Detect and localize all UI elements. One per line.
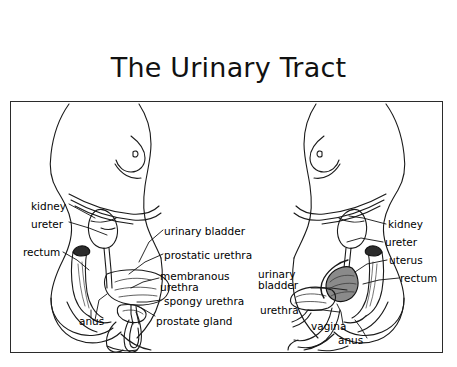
label-male-rectum: rectum xyxy=(23,247,60,258)
label-female-anus: anus xyxy=(338,335,363,346)
label-female-vagina: vagina xyxy=(311,321,346,332)
label-female-ureter: ureter xyxy=(385,237,417,248)
label-female-rectum: rectum xyxy=(400,273,437,284)
page-title: The Urinary Tract xyxy=(0,54,457,81)
label-male-anus: anus xyxy=(79,316,104,327)
label-female-uterus: uterus xyxy=(389,255,423,266)
label-male-kidney: kidney xyxy=(31,201,66,212)
label-female-kidney: kidney xyxy=(388,219,423,230)
label-male-ureter: ureter xyxy=(31,219,63,230)
label-male-spongy-urethra: spongy urethra xyxy=(164,296,244,307)
diagram-frame: kidney ureter rectum anus urinary bladde… xyxy=(10,101,443,353)
label-male-urinary-bladder: urinary bladder xyxy=(164,226,245,237)
label-male-prostate-gland: prostate gland xyxy=(156,316,232,327)
label-male-membranous-urethra: membranous urethra xyxy=(160,271,230,293)
label-female-urethra: urethra xyxy=(260,305,299,316)
label-female-urinary-bladder: urinary bladder xyxy=(258,269,298,291)
label-male-prostatic-urethra: prostatic urethra xyxy=(164,250,252,261)
